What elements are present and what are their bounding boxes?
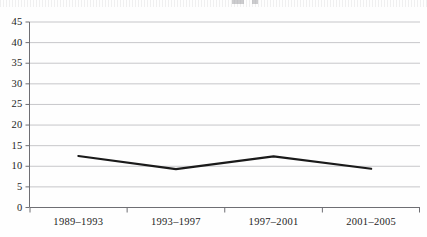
x-axis-category-label: 1997–2001 [225,216,323,228]
line-chart [0,0,427,237]
y-axis-tick-label: 15 [0,140,23,151]
y-axis-tick-label: 25 [0,98,23,109]
y-axis-tick-label: 5 [0,181,23,192]
x-axis-category-label: 1989–1993 [30,216,128,228]
y-axis-tick-label: 0 [0,202,23,213]
chart-page: 051015202530354045 1989–19931993–1997199… [0,0,427,237]
x-axis-category-label: 1993–1997 [127,216,225,228]
y-axis-tick-label: 10 [0,160,23,171]
x-axis-category-label: 2001–2005 [322,216,420,228]
y-axis-tick-label: 40 [0,37,23,48]
x-axis-ticks-group [30,208,420,213]
y-axis-tick-label: 45 [0,16,23,27]
y-axis-tick-label: 35 [0,57,23,68]
y-axis-tick-label: 30 [0,78,23,89]
y-axis-tick-label: 20 [0,119,23,130]
data-series-line [78,156,371,169]
y-axis-ticks-group [26,22,30,208]
